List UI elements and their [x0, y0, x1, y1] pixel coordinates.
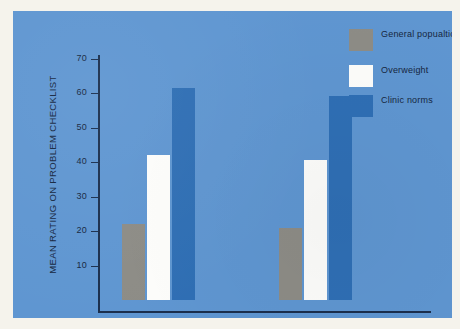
y-tick-20 [91, 231, 99, 232]
legend-swatch-icon [349, 95, 373, 117]
chart-plate: MEAN RATING ON PROBLEM CHECKLIST 1020304… [13, 11, 452, 318]
y-tick-10 [91, 266, 99, 267]
y-tick-30 [91, 197, 99, 198]
y-tick-label-30: 30 [65, 192, 87, 201]
figure: MEAN RATING ON PROBLEM CHECKLIST 1020304… [0, 0, 460, 329]
legend-label: Overweight [381, 65, 452, 76]
y-axis-title: MEAN RATING ON PROBLEM CHECKLIST [47, 60, 58, 290]
bar-boys-general-popualtion [122, 224, 145, 300]
legend-label: Clinic norms [381, 95, 452, 106]
bar-boys-overweight [147, 155, 170, 300]
legend-label: General popualtion [381, 29, 452, 40]
y-tick-label-20: 20 [65, 226, 87, 235]
y-tick-50 [91, 128, 99, 129]
y-tick-label-50: 50 [65, 123, 87, 132]
bar-girls-general-popualtion [279, 228, 302, 300]
legend-swatch-icon [349, 65, 373, 87]
y-tick-label-40: 40 [65, 157, 87, 166]
y-tick-60 [91, 93, 99, 94]
bar-boys-clinic-norms [172, 88, 195, 300]
x-axis-line [98, 311, 431, 313]
y-tick-70 [91, 59, 99, 60]
bar-girls-clinic-norms [329, 96, 352, 300]
y-tick-label-70: 70 [65, 54, 87, 63]
y-tick-label-10: 10 [65, 261, 87, 270]
legend-swatch-icon [349, 29, 373, 51]
y-tick-40 [91, 162, 99, 163]
y-tick-label-60: 60 [65, 88, 87, 97]
bar-girls-overweight [304, 160, 327, 300]
